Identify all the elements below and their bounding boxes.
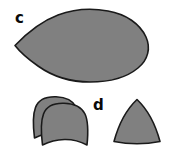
panel-label-c: c — [15, 11, 24, 26]
figure-shapes-canvas — [0, 0, 173, 155]
figure-panel: c d — [0, 0, 173, 155]
panel-label-d: d — [93, 98, 104, 113]
dome-outline-front-shape — [41, 103, 87, 145]
